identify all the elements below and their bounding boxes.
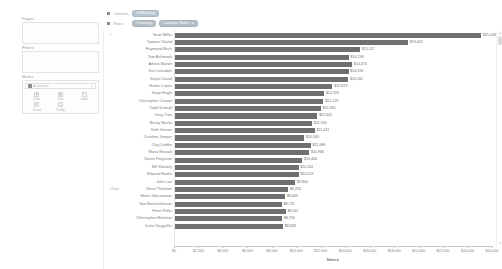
row-header-label[interactable]: Edward Hooks — [147, 171, 172, 178]
bar-row: $9,005 — [175, 193, 492, 200]
pill-clustering[interactable]: Clustering — [132, 20, 156, 26]
bar-mark[interactable] — [175, 143, 311, 148]
bar-mark[interactable] — [175, 106, 321, 111]
bar-row: $11,089 — [175, 142, 492, 149]
mark-type-selector[interactable]: Automatic ▾ — [25, 83, 96, 89]
caret-up-icon[interactable]: ▲ — [498, 31, 502, 35]
bar-value-label: $8,828 — [284, 224, 296, 229]
bar-value-label: $10,119 — [300, 172, 314, 177]
marks-button-size-label: Size — [57, 97, 63, 101]
rows-shelf[interactable]: Rows Clustering Customer Name ▲ — [107, 20, 198, 27]
filters-shelf-dropzone[interactable] — [22, 51, 99, 73]
bar-row: $9,253 — [175, 186, 492, 193]
row-header-label[interactable]: Grant Thornton — [146, 186, 172, 193]
marks-card-label: Marks — [22, 74, 99, 79]
bar-mark[interactable] — [175, 187, 288, 192]
bar-mark[interactable] — [175, 194, 285, 199]
row-header-label[interactable]: Ken Lonsdale — [148, 68, 172, 75]
vertical-scrollbar[interactable]: ▲ ▼ — [496, 30, 502, 246]
bar-mark[interactable] — [175, 150, 309, 155]
x-axis-tick-label: $0 — [172, 249, 176, 253]
pill-sum-sales[interactable]: SUM(Sales) — [132, 10, 159, 16]
pages-shelf-dropzone[interactable] — [22, 22, 99, 44]
sort-ascending-icon[interactable]: ▲ — [191, 21, 194, 25]
marks-button-color[interactable]: ■ Color — [25, 92, 49, 102]
row-header-label[interactable]: Tom Ashbrook — [148, 54, 172, 61]
row-header-label[interactable]: Karen Ferguson — [144, 156, 172, 163]
bar-mark[interactable] — [175, 47, 360, 52]
pill-sum-sales-text: SUM(Sales) — [136, 11, 155, 15]
bar-mark[interactable] — [175, 172, 299, 177]
row-header-label[interactable]: Sanjit Chand — [150, 76, 172, 83]
bar-mark[interactable] — [175, 158, 302, 163]
row-header-label[interactable]: Helen Wasserman — [141, 193, 172, 200]
row-header-label[interactable]: Raymond Buch — [146, 46, 172, 53]
row-header-label[interactable]: John Lee — [156, 179, 172, 186]
bar-mark[interactable] — [175, 91, 324, 96]
chevron-down-icon[interactable]: ▾ — [91, 84, 93, 88]
bar-mark[interactable] — [175, 224, 283, 229]
marks-button-tooltip[interactable]: ▢ Tooltip — [49, 102, 73, 112]
row-header-label[interactable]: Clay Ludtke — [152, 142, 172, 149]
bar-mark[interactable] — [175, 121, 312, 126]
marks-button-size[interactable]: ▥ Size — [49, 92, 73, 102]
bar-value-label: $25,043 — [482, 33, 496, 38]
caret-down-icon[interactable]: ▼ — [498, 241, 502, 245]
row-header-label[interactable]: Tom Boeckenhauer — [139, 201, 172, 208]
bar-mark[interactable] — [175, 55, 349, 60]
bar-mark[interactable] — [175, 62, 352, 67]
row-header-label[interactable]: Todd Sumrall — [150, 105, 172, 112]
row-header-label[interactable]: Adrian Barton — [148, 61, 172, 68]
bar-chart-plot-area: $25,043$19,052$15,117$14,198$14,474$14,1… — [174, 30, 492, 246]
color-icon: ■ — [34, 92, 39, 97]
row-header-label[interactable]: Bill Shonely — [152, 164, 172, 171]
bar-value-label: $19,052 — [409, 40, 423, 45]
bar-row: $10,966 — [175, 149, 492, 156]
bar-row: $11,421 — [175, 127, 492, 134]
bar-mark[interactable] — [175, 40, 408, 45]
row-header-label[interactable]: Justin Deggeller — [144, 223, 172, 230]
bar-mark[interactable] — [175, 135, 304, 140]
row-header-label[interactable]: Caroline Jumper — [144, 134, 172, 141]
bar-value-label: $14,474 — [353, 62, 367, 67]
row-header-label[interactable]: Sean Miller — [153, 32, 172, 39]
bar-mark[interactable] — [175, 216, 282, 221]
row-header-label[interactable]: Seth Vernon — [151, 127, 172, 134]
bar-value-label: $10,565 — [305, 135, 319, 140]
bar-value-label: $11,089 — [312, 143, 326, 148]
marks-button-detail[interactable]: ◎ Detail — [25, 102, 49, 112]
bar-row: $11,641 — [175, 112, 492, 119]
marks-button-label[interactable]: T Label — [72, 92, 96, 102]
row-header-label[interactable]: Hunter Lopez — [149, 83, 172, 90]
bar-mark[interactable] — [175, 69, 349, 74]
row-header-label[interactable]: Peter Fuller — [152, 208, 172, 215]
row-header-label[interactable]: Sanjit Engle — [151, 90, 172, 97]
bar-mark[interactable] — [175, 180, 295, 185]
scroll-thumb[interactable] — [498, 36, 501, 45]
bar-mark[interactable] — [175, 77, 348, 82]
row-header-label[interactable]: Becky Martin — [150, 120, 172, 127]
x-axis-tick-label: $12,000 — [314, 249, 327, 253]
row-group-header-column: • Clust — [104, 30, 122, 246]
bar-mark[interactable] — [175, 84, 332, 89]
bar-row: $15,117 — [175, 46, 492, 53]
bar-value-label: $9,005 — [286, 194, 298, 199]
bar-mark[interactable] — [175, 202, 282, 207]
bar-mark[interactable] — [175, 113, 317, 118]
x-axis-tick-label: $20,000 — [412, 249, 425, 253]
row-header-label[interactable]: Christopher Martinez — [136, 215, 172, 222]
row-header-label[interactable]: Christopher Conant — [139, 98, 172, 105]
bar-mark[interactable] — [175, 209, 286, 214]
columns-shelf[interactable]: Columns SUM(Sales) — [107, 10, 159, 17]
pill-customer-name[interactable]: Customer Name ▲ — [159, 20, 198, 26]
columns-shelf-label: Columns — [113, 11, 129, 16]
row-header-label[interactable]: Maria Etezadi — [149, 149, 173, 156]
row-header-label[interactable]: Tamara Chand — [147, 39, 172, 46]
row-header-label[interactable]: Greg Tran — [155, 112, 172, 119]
bar-mark[interactable] — [175, 33, 481, 38]
bar-mark[interactable] — [175, 165, 299, 170]
bar-mark[interactable] — [175, 128, 315, 133]
bar-value-label: $14,190 — [350, 69, 364, 74]
bar-mark[interactable] — [175, 99, 323, 104]
row-group-label-top: • — [110, 33, 111, 37]
